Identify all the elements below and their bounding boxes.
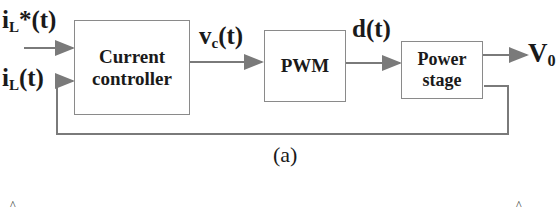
figure-caption: (a) [273, 142, 297, 168]
control-voltage-label: vc(t) [199, 22, 243, 52]
current-controller-block: Current controller [74, 20, 190, 115]
output-voltage-label: V0 [528, 38, 556, 71]
current-controller-label-line2: controller [92, 68, 172, 90]
pwm-label: PWM [281, 55, 330, 77]
measured-current-label: iL(t) [2, 64, 44, 94]
power-stage-label-line1: Power [418, 49, 467, 70]
current-controller-label-line1: Current [92, 46, 172, 68]
power-stage-block: Power stage [401, 41, 483, 99]
bottom-left-axis-mark: ^ [10, 198, 16, 211]
reference-current-label: iL*(t) [2, 6, 56, 36]
bottom-right-axis-mark: ^ [516, 198, 522, 211]
pwm-block: PWM [264, 30, 346, 102]
power-stage-label-line2: stage [418, 70, 467, 91]
duty-cycle-label: d(t) [352, 15, 391, 43]
